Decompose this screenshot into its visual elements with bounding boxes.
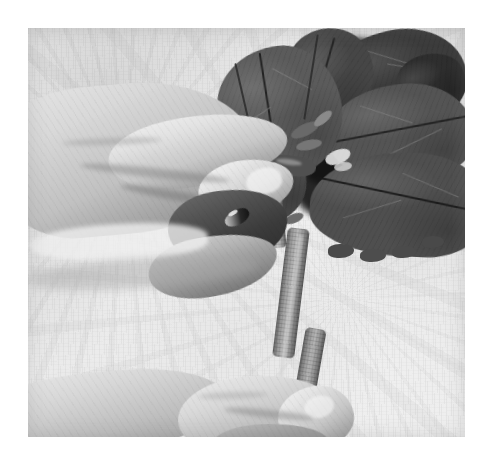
plant-propagation-photograph [28,28,465,437]
page-root: Black and white photograph of two hands … [0,0,494,461]
lower-hand [28,28,465,437]
